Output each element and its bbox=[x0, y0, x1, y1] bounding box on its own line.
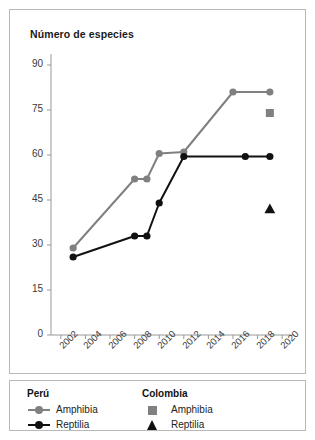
data-point-0-1 bbox=[131, 175, 138, 182]
legend-item-label: Reptilia bbox=[168, 419, 204, 430]
triangle-marker-icon bbox=[142, 418, 168, 432]
legend-circle-swatch bbox=[35, 406, 43, 414]
data-point-2-0 bbox=[266, 109, 274, 117]
y-tick-label: 60 bbox=[17, 148, 43, 159]
legend-item-label: Amphibia bbox=[53, 404, 98, 415]
series-line-0 bbox=[73, 92, 270, 248]
data-point-1-2 bbox=[143, 232, 150, 239]
legend-item-reptilia[interactable]: Reptilia bbox=[27, 417, 98, 432]
square-marker-icon bbox=[142, 403, 168, 417]
data-point-1-4 bbox=[180, 153, 187, 160]
data-point-0-5 bbox=[229, 88, 236, 95]
chart-panel: Número de especies 0153045607590 2002200… bbox=[9, 9, 306, 374]
legend-group-peru: PerúAmphibiaReptilia bbox=[27, 388, 98, 432]
legend-group-colombia: ColombiaAmphibiaReptilia bbox=[142, 388, 213, 432]
legend-circle-swatch bbox=[35, 421, 43, 429]
legend-item-label: Amphibia bbox=[168, 404, 213, 415]
legend-panel: PerúAmphibiaReptiliaColombiaAmphibiaRept… bbox=[9, 380, 306, 431]
y-tick-label: 75 bbox=[17, 103, 43, 114]
y-tick-label: 15 bbox=[17, 283, 43, 294]
legend-item-label: Reptilia bbox=[53, 419, 89, 430]
data-point-0-3 bbox=[156, 150, 163, 157]
circle-marker-icon bbox=[27, 418, 53, 432]
legend-item-reptilia[interactable]: Reptilia bbox=[142, 417, 213, 432]
series-line-1 bbox=[73, 157, 270, 258]
circle-marker-icon bbox=[27, 403, 53, 417]
y-tick-label: 0 bbox=[17, 328, 43, 339]
legend-group-heading: Perú bbox=[27, 388, 98, 399]
legend-square-swatch bbox=[148, 406, 157, 415]
data-point-0-0 bbox=[70, 244, 77, 251]
y-tick-label: 90 bbox=[17, 58, 43, 69]
data-point-0-2 bbox=[143, 175, 150, 182]
legend-triangle-swatch bbox=[147, 420, 157, 430]
legend-item-amphibia[interactable]: Amphibia bbox=[27, 402, 98, 417]
plot-area bbox=[10, 10, 307, 375]
data-point-3-0 bbox=[264, 204, 275, 214]
legend-group-heading: Colombia bbox=[142, 388, 213, 399]
y-tick-label: 45 bbox=[17, 193, 43, 204]
plot-canvas bbox=[10, 10, 307, 375]
data-point-1-3 bbox=[156, 199, 163, 206]
data-point-1-5 bbox=[242, 153, 249, 160]
y-tick-label: 30 bbox=[17, 238, 43, 249]
legend-item-amphibia[interactable]: Amphibia bbox=[142, 402, 213, 417]
data-point-1-6 bbox=[266, 153, 273, 160]
figure-root: Número de especies 0153045607590 2002200… bbox=[0, 0, 315, 440]
data-point-0-6 bbox=[266, 88, 273, 95]
data-point-1-1 bbox=[131, 232, 138, 239]
data-point-1-0 bbox=[70, 253, 77, 260]
legend-content: PerúAmphibiaReptiliaColombiaAmphibiaRept… bbox=[10, 381, 305, 430]
